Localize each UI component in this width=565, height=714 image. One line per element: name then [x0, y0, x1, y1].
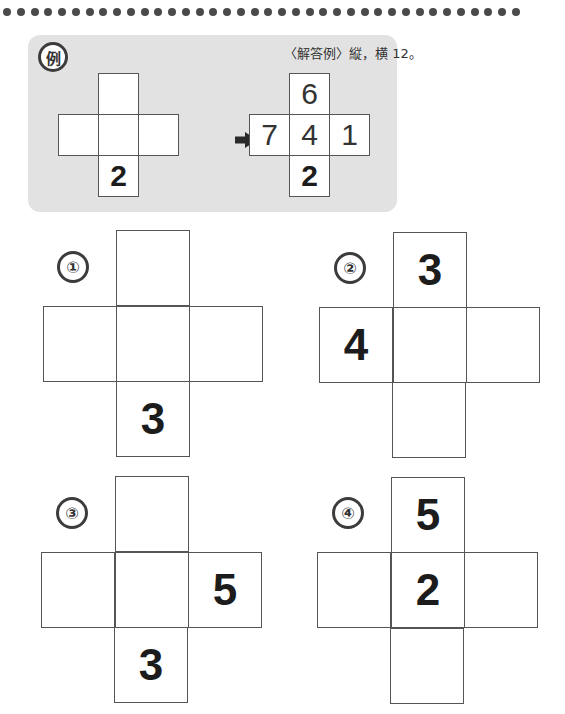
- puzzle-2-top-cell[interactable]: 3: [393, 232, 467, 308]
- puzzle-3-left-cell[interactable]: [41, 552, 115, 628]
- divider-dot: [86, 8, 94, 16]
- example-panel: 例 〈解答例〉縦，横 12。 2 6 7 4 1 2: [28, 35, 397, 212]
- divider-dot: [306, 8, 314, 16]
- example-answer-left-cell: 7: [249, 114, 290, 156]
- example-answer-center-cell: 4: [289, 114, 330, 156]
- example-problem-right-cell: [138, 114, 179, 156]
- divider-dot: [44, 8, 52, 16]
- puzzle-1-number-badge: ①: [57, 251, 89, 283]
- puzzle-1-center-cell[interactable]: [116, 306, 190, 382]
- divider-dot: [402, 8, 410, 16]
- example-problem-top-cell: [98, 73, 139, 115]
- divider-dot: [457, 8, 465, 16]
- puzzle-4-left-cell[interactable]: [317, 552, 391, 628]
- divider-dot: [99, 8, 107, 16]
- divider-dot: [3, 8, 11, 16]
- divider-dot: [512, 8, 520, 16]
- divider-dot: [429, 8, 437, 16]
- example-answer-bottom-cell: 2: [289, 155, 330, 197]
- divider-dot: [182, 8, 190, 16]
- divider-dot: [484, 8, 492, 16]
- divider-dot: [374, 8, 382, 16]
- example-problem-center-cell: [98, 114, 139, 156]
- divider-dot: [209, 8, 217, 16]
- puzzle-2-bottom-cell[interactable]: [392, 382, 466, 458]
- puzzle-3-center-cell[interactable]: [115, 552, 189, 628]
- puzzle-2-right-cell[interactable]: [466, 307, 540, 383]
- divider-dot: [333, 8, 341, 16]
- puzzle-4-center-cell[interactable]: 2: [391, 552, 465, 628]
- divider-dot: [278, 8, 286, 16]
- puzzle-3-number-badge: ③: [56, 497, 88, 529]
- puzzle-1-top-cell[interactable]: [116, 230, 190, 306]
- example-answer-note: 〈解答例〉縦，横 12。: [284, 43, 422, 62]
- puzzle-4-top-cell[interactable]: 5: [391, 477, 465, 553]
- puzzle-1-left-cell[interactable]: [43, 306, 117, 382]
- divider-dot: [292, 8, 300, 16]
- divider-dot: [498, 8, 506, 16]
- divider-dot: [237, 8, 245, 16]
- divider-dot: [168, 8, 176, 16]
- example-problem-bottom-cell: 2: [98, 155, 139, 197]
- divider-dot: [17, 8, 25, 16]
- divider-dot: [388, 8, 396, 16]
- puzzle-2-center-cell[interactable]: [393, 307, 467, 383]
- puzzle-2-number-badge: ②: [334, 252, 366, 284]
- dotted-divider: [0, 0, 565, 14]
- puzzle-1-right-cell[interactable]: [189, 306, 263, 382]
- divider-dot: [416, 8, 424, 16]
- divider-dot: [141, 8, 149, 16]
- divider-dot: [361, 8, 369, 16]
- divider-dot: [113, 8, 121, 16]
- divider-dot: [196, 8, 204, 16]
- example-answer-right-cell: 1: [329, 114, 370, 156]
- divider-dot: [223, 8, 231, 16]
- example-badge: 例: [38, 42, 68, 72]
- example-answer-top-cell: 6: [289, 73, 330, 115]
- puzzle-1-bottom-cell[interactable]: 3: [116, 381, 190, 457]
- example-problem-left-cell: [58, 114, 99, 156]
- puzzle-2-left-cell[interactable]: 4: [319, 307, 393, 383]
- divider-dot: [471, 8, 479, 16]
- divider-dot: [251, 8, 259, 16]
- divider-dot: [31, 8, 39, 16]
- puzzle-4-bottom-cell[interactable]: [390, 628, 464, 704]
- puzzle-3-bottom-cell[interactable]: 3: [114, 627, 188, 703]
- puzzle-4-number-badge: ④: [332, 497, 364, 529]
- divider-dot: [264, 8, 272, 16]
- puzzle-4-right-cell[interactable]: [464, 552, 538, 628]
- divider-dot: [319, 8, 327, 16]
- puzzle-3-top-cell[interactable]: [115, 476, 189, 552]
- divider-dot: [127, 8, 135, 16]
- puzzle-3-right-cell[interactable]: 5: [188, 552, 262, 628]
- divider-dot: [58, 8, 66, 16]
- divider-dot: [154, 8, 162, 16]
- divider-dot: [443, 8, 451, 16]
- divider-dot: [347, 8, 355, 16]
- divider-dot: [72, 8, 80, 16]
